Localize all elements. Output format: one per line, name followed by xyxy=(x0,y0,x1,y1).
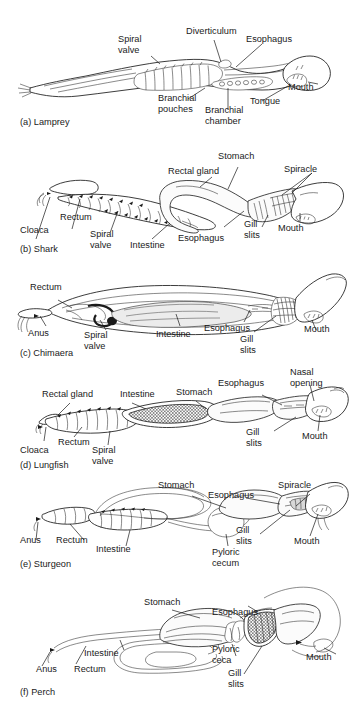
label-mouth: Mouth xyxy=(294,536,320,546)
label-mouth: Mouth xyxy=(304,324,330,334)
label-mouth: Mouth xyxy=(278,223,304,233)
label-gill-slits-l1: Gill xyxy=(246,427,259,437)
label-spiral-valve-l2: valve xyxy=(118,45,139,55)
label-intestine: Intestine xyxy=(84,648,119,658)
label-gill-slits-l2: slits xyxy=(236,536,252,546)
label-spiracle: Spiracle xyxy=(278,480,311,490)
label-rectum: Rectum xyxy=(74,664,106,674)
label-spiral-valve-l2: valve xyxy=(90,240,111,250)
label-nasal-opening-l2: opening xyxy=(290,378,323,388)
panel-shark: Stomach Rectal gland Spiracle Mouth Gill… xyxy=(0,135,353,260)
label-esophagus: Esophagus xyxy=(212,607,258,617)
label-gill-slits-l1: Gill xyxy=(240,334,253,344)
label-pyloric-cecum-l2: cecum xyxy=(212,558,239,568)
shark-head xyxy=(291,182,343,224)
panel-perch: Stomach Esophagus Mouth Pyloric ceca Gil… xyxy=(0,582,353,707)
caption-shark: (b) Shark xyxy=(20,244,58,254)
label-spiral-valve-l1: Spiral xyxy=(90,229,114,239)
label-gill-slits-l2: slits xyxy=(244,230,260,240)
label-mouth: Mouth xyxy=(302,431,328,441)
label-anus: Anus xyxy=(36,664,57,674)
label-gill-slits-l1: Gill xyxy=(228,668,241,678)
label-esophagus: Esophagus xyxy=(218,378,264,388)
label-pyloric-ceca-l2: ceca xyxy=(212,655,232,665)
chimaera-head xyxy=(295,274,347,323)
label-pyloric-cecum-l1: Pyloric xyxy=(212,547,240,557)
label-stomach: Stomach xyxy=(158,480,194,490)
label-nasal-opening-l1: Nasal xyxy=(290,367,314,377)
label-gill-slits-l1: Gill xyxy=(236,525,249,535)
label-spiral-valve-l1: Spiral xyxy=(84,330,108,340)
label-spiral-valve-l2: valve xyxy=(84,341,105,351)
panel-lungfish: Rectal gland Intestine Stomach Esophagus… xyxy=(0,365,353,470)
label-gill-slits-l1: Gill xyxy=(244,219,257,229)
caption-chimaera: (c) Chimaera xyxy=(20,348,74,358)
panel-lamprey: Spiral valve Diverticulum Esophagus Mout… xyxy=(0,0,353,135)
label-mouth: Mouth xyxy=(306,652,332,662)
label-gill-slits-l2: slits xyxy=(240,345,256,355)
label-intestine: Intestine xyxy=(120,389,155,399)
fish-digestive-tract-figure: Spiral valve Diverticulum Esophagus Mout… xyxy=(0,0,353,707)
label-rectal-gland: Rectal gland xyxy=(42,389,93,399)
lungfish-stomach xyxy=(208,397,281,423)
label-cloaca: Cloaca xyxy=(20,445,49,455)
label-diverticulum: Diverticulum xyxy=(186,26,237,36)
panel-sturgeon: Stomach Esophagus Spiracle Mouth Gill sl… xyxy=(0,470,353,582)
label-spiral-valve-l1: Spiral xyxy=(92,445,116,455)
label-rectum: Rectum xyxy=(60,212,92,222)
label-branchial-pouches-l1: Branchial xyxy=(158,93,196,103)
label-branchial-chamber-l1: Branchial xyxy=(205,105,243,115)
label-intestine: Intestine xyxy=(130,240,165,250)
caption-sturgeon: (e) Sturgeon xyxy=(20,559,71,569)
label-esophagus: Esophagus xyxy=(204,323,250,333)
label-esophagus: Esophagus xyxy=(178,233,224,243)
label-stomach: Stomach xyxy=(218,151,254,161)
label-intestine: Intestine xyxy=(96,544,131,554)
label-branchial-pouches-l2: pouches xyxy=(158,104,193,114)
label-rectum: Rectum xyxy=(30,282,62,292)
label-spiracle: Spiracle xyxy=(284,164,317,174)
caption-lungfish: (d) Lungfish xyxy=(20,460,69,470)
label-stomach: Stomach xyxy=(176,387,212,397)
label-stomach: Stomach xyxy=(144,597,180,607)
label-spiral-valve-l1: Spiral xyxy=(118,34,142,44)
label-branchial-chamber-l2: chamber xyxy=(205,116,241,126)
label-spiral-valve-l2: valve xyxy=(92,456,113,466)
lungfish-intestine xyxy=(122,400,218,427)
label-gill-slits-l2: slits xyxy=(228,679,244,689)
label-anus: Anus xyxy=(28,328,49,338)
label-anus: Anus xyxy=(20,535,41,545)
label-tongue: Tongue xyxy=(250,96,280,106)
label-rectum: Rectum xyxy=(58,437,90,447)
perch-buccal-region xyxy=(274,604,320,644)
label-pyloric-ceca-l1: Pyloric xyxy=(212,644,240,654)
label-rectal-gland: Rectal gland xyxy=(168,166,219,176)
label-esophagus: Esophagus xyxy=(246,34,292,44)
label-intestine: Intestine xyxy=(156,329,191,339)
label-cloaca: Cloaca xyxy=(20,225,49,235)
caption-perch: (f) Perch xyxy=(20,687,55,697)
caption-lamprey: (a) Lamprey xyxy=(20,117,70,127)
sturgeon-head xyxy=(305,482,348,530)
panel-chimaera: Rectum Anus Spiral valve Intestine Esoph… xyxy=(0,260,353,365)
label-gill-slits-l2: slits xyxy=(246,438,262,448)
sturgeon-rectum xyxy=(34,507,95,531)
label-mouth: Mouth xyxy=(288,82,314,92)
label-esophagus: Esophagus xyxy=(208,490,254,500)
label-rectum: Rectum xyxy=(56,535,88,545)
